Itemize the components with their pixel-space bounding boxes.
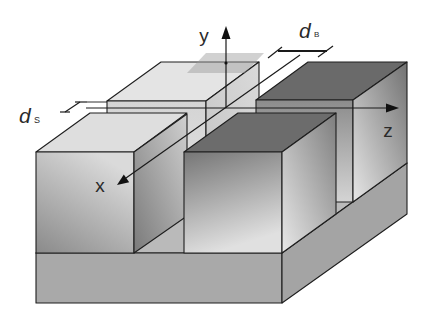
front-left-front-face	[36, 152, 134, 253]
front-left-block	[36, 113, 187, 253]
d-b-tick-left	[268, 47, 282, 58]
y-axis-arrow-icon	[222, 26, 231, 39]
front-right-front-face	[184, 152, 282, 253]
x-axis-label: x	[95, 175, 105, 196]
z-axis-label: z	[383, 120, 393, 141]
dimension-marker-d-b	[268, 46, 333, 58]
d-s-symbol: d	[19, 104, 32, 127]
base-front-face	[36, 253, 282, 303]
d-b-subscript: B	[314, 30, 319, 39]
origin-dot	[224, 61, 227, 64]
y-axis-label: y	[199, 25, 209, 46]
d-b-symbol: d	[299, 19, 312, 42]
d-s-subscript: S	[34, 115, 40, 125]
dimension-marker-d-s	[60, 102, 107, 112]
d-s-slash	[65, 102, 80, 112]
block-structure-diagram: y z x d B d S	[0, 0, 425, 319]
